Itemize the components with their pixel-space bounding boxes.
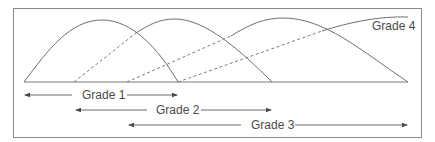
grade-1-curve [24, 20, 178, 82]
diagram-canvas: Grade 4 Grade 1 Grade 2 Grade 3 [0, 0, 435, 142]
grade-2-range-label: Grade 2 [156, 103, 200, 117]
grade-2-curve-rise-dashed [74, 33, 136, 82]
grade-overlap-diagram: Grade 4 Grade 1 Grade 2 Grade 3 [0, 0, 435, 142]
grade-4-curve-rise-dashed [178, 31, 322, 82]
grade-4-curve-label: Grade 4 [372, 19, 416, 33]
grade-1-range-label: Grade 1 [82, 88, 126, 102]
grade-3-curve-rise-dashed [127, 36, 231, 82]
grade-3-range-label: Grade 3 [251, 118, 295, 132]
